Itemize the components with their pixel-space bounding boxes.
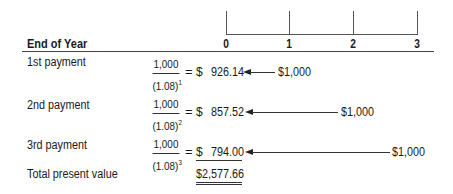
- equals-sign: =: [185, 144, 193, 159]
- year-label-2: 2: [348, 37, 358, 51]
- numerator: 1,000: [153, 98, 180, 111]
- denominator: (1.08)1: [153, 76, 180, 89]
- cash-flow: $1,000: [392, 145, 425, 159]
- currency-symbol: $: [196, 105, 203, 119]
- present-value: 794.00: [211, 145, 244, 159]
- equals-sign: =: [185, 104, 193, 119]
- arrow-line: [252, 152, 390, 153]
- header-end-of-year: End of Year: [27, 37, 87, 51]
- row-label: 3rd payment: [27, 138, 87, 152]
- discount-fraction: 1,000 (1.08)3: [153, 138, 180, 169]
- fraction-bar: [153, 153, 180, 154]
- total-label: Total present value: [27, 167, 118, 181]
- currency-symbol: $: [196, 65, 203, 79]
- sum-underline: [196, 160, 242, 161]
- cash-flow: $1,000: [278, 65, 311, 79]
- denominator: (1.08)2: [153, 116, 180, 129]
- discount-fraction: 1,000 (1.08)2: [153, 98, 180, 129]
- total-present-value: $2,577.66: [196, 167, 244, 181]
- arrow-line: [250, 72, 275, 73]
- timeline-tick-0: [226, 11, 227, 35]
- present-value: 926.14: [211, 65, 244, 79]
- timeline-tick-2: [353, 11, 354, 35]
- fraction-bar: [153, 73, 180, 74]
- equals-sign: =: [185, 64, 193, 79]
- numerator: 1,000: [153, 138, 180, 151]
- arrow-line: [252, 112, 338, 113]
- fraction-bar: [153, 113, 180, 114]
- timeline-tick-1: [289, 11, 290, 35]
- timeline-baseline: [226, 34, 418, 35]
- row-label: 1st payment: [27, 55, 86, 69]
- present-value: 857.52: [211, 105, 244, 119]
- year-label-3: 3: [412, 37, 422, 51]
- double-underline-bottom: [196, 184, 242, 185]
- header-rule: [22, 51, 434, 52]
- year-label-1: 1: [284, 37, 294, 51]
- denominator: (1.08)3: [153, 156, 180, 169]
- discount-fraction: 1,000 (1.08)1: [153, 58, 180, 89]
- double-underline-top: [196, 182, 242, 183]
- year-label-0: 0: [221, 37, 231, 51]
- currency-symbol: $: [196, 145, 203, 159]
- numerator: 1,000: [153, 58, 180, 71]
- timeline-tick-3: [417, 11, 418, 35]
- row-label: 2nd payment: [27, 98, 89, 112]
- cash-flow: $1,000: [341, 105, 374, 119]
